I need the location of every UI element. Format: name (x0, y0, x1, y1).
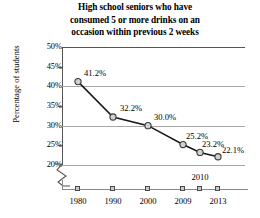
data-point-2013 (215, 154, 221, 160)
data-point-2009 (180, 141, 186, 147)
chart-figure: High school seniors who have consumed 5 … (0, 0, 260, 218)
series-markers (75, 79, 221, 160)
data-point-2000 (145, 123, 151, 129)
data-label-1980: 41.2% (84, 68, 106, 78)
data-label-2000: 30.0% (154, 112, 176, 122)
series-line (78, 82, 218, 157)
data-label-2010: 23.2% (202, 139, 224, 149)
data-point-1990 (110, 114, 116, 120)
data-point-2010 (197, 149, 203, 155)
data-label-2013: 22.1% (222, 145, 244, 155)
data-label-1990: 32.2% (120, 103, 142, 113)
data-point-1980 (75, 79, 81, 85)
plot-area: 50%45%40%35%30%25%20% 198019902000200920… (0, 0, 260, 218)
